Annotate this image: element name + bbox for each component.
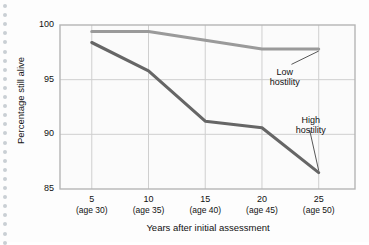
y-tick-label: 90 bbox=[30, 128, 54, 138]
series-label-low-hostility: Low hostility bbox=[257, 67, 313, 88]
y-tick-label: 85 bbox=[30, 183, 54, 193]
x-tick-label: 10 bbox=[121, 194, 177, 204]
x-tick-sublabel: (age 35) bbox=[121, 205, 177, 215]
x-axis-title: Years after initial assessment bbox=[60, 222, 356, 233]
x-tick-label: 5 bbox=[64, 194, 120, 204]
x-tick-sublabel: (age 45) bbox=[234, 205, 290, 215]
y-axis-title: Percentage still alive bbox=[15, 45, 26, 157]
x-tick-sublabel: (age 40) bbox=[177, 205, 233, 215]
y-tick-label: 95 bbox=[30, 74, 54, 84]
x-tick-sublabel: (age 50) bbox=[291, 205, 347, 215]
series-label-high-line2: hostility bbox=[283, 125, 339, 136]
y-tick-label: 100 bbox=[30, 19, 54, 29]
series-label-low-line2: hostility bbox=[257, 77, 313, 88]
x-tick-label: 25 bbox=[291, 194, 347, 204]
series-label-high-line1: High bbox=[283, 115, 339, 126]
x-tick-label: 15 bbox=[177, 194, 233, 204]
series-label-high-hostility: High hostility bbox=[283, 115, 339, 136]
series-label-low-line1: Low bbox=[257, 67, 313, 78]
x-tick-sublabel: (age 30) bbox=[64, 205, 120, 215]
x-tick-label: 20 bbox=[234, 194, 290, 204]
